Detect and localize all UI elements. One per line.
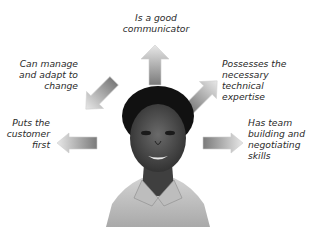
label-line: expertise	[222, 91, 310, 102]
label-line: change	[10, 80, 78, 91]
label-line: Puts the	[2, 117, 50, 128]
label-line: negotiating	[248, 139, 308, 150]
label-line: building and	[248, 128, 308, 139]
arrow-up-icon	[140, 45, 170, 85]
label-technical: Possesses the necessary technical expert…	[222, 58, 310, 102]
arrow-left-icon	[57, 133, 97, 153]
label-customer: Puts the customer first	[2, 117, 50, 150]
label-line: communicator	[110, 23, 202, 34]
label-line: Can manage	[10, 58, 78, 69]
label-line: and adapt to	[10, 69, 78, 80]
label-line: necessary technical	[222, 69, 310, 91]
label-line: Is a good	[110, 12, 202, 23]
label-line: first	[2, 139, 50, 150]
label-manage-adapt: Can manage and adapt to change	[10, 58, 78, 91]
label-line: skills	[248, 150, 308, 161]
label-line: Possesses the	[222, 58, 310, 69]
label-line: Has team	[248, 117, 308, 128]
label-line: customer	[2, 128, 50, 139]
person-photo	[104, 86, 212, 227]
label-communicator: Is a good communicator	[110, 12, 202, 34]
label-team: Has team building and negotiating skills	[248, 117, 308, 161]
